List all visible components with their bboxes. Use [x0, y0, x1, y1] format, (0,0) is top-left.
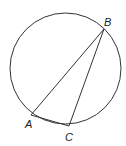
label-a: A [24, 118, 32, 130]
diagram-canvas: A B C [0, 0, 126, 146]
circle [10, 13, 121, 124]
label-c: C [65, 131, 73, 143]
label-b: B [104, 16, 111, 28]
segment-bc [69, 29, 104, 126]
segment-ab [31, 29, 104, 115]
segment-ac [31, 115, 69, 126]
